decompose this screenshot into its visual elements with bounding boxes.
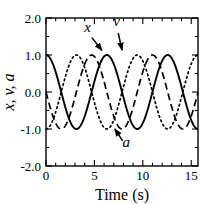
annotation-arrow-x [92,38,102,51]
annotation-arrow-v [118,33,122,50]
curve-label-x: x [83,19,91,35]
curve-label-a: a [123,134,131,150]
y-tick-label: -1.0 [20,122,41,137]
x-tick-label: 15 [185,168,198,183]
annotation-arrow-a [115,129,123,141]
y-tick-label: 2.0 [25,11,41,26]
chart-figure: 051015-2.0-1.00.01.02.0xvaTime (s)x, v, … [0,0,211,204]
x-tick-label: 10 [136,168,149,183]
y-tick-label: 0.0 [25,85,41,100]
x-tick-label: 5 [91,168,98,183]
oscillation-plot: 051015-2.0-1.00.01.02.0xvaTime (s)x, v, … [0,0,211,204]
y-tick-label: -2.0 [20,159,41,174]
y-axis-title: x, v, a [0,73,17,111]
y-tick-label: 1.0 [25,48,41,63]
curve-label-v: v [113,13,120,29]
x-tick-label: 0 [43,168,50,183]
x-axis-title: Time (s) [95,186,149,204]
